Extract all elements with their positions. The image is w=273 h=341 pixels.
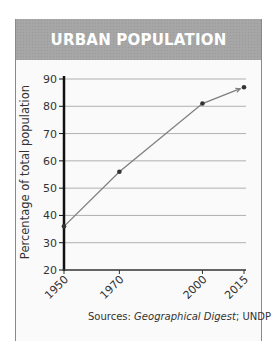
y-axis-label: Percentage of total population — [18, 85, 32, 259]
svg-text:60: 60 — [43, 155, 57, 168]
svg-text:1970: 1970 — [98, 273, 127, 302]
line-chart: 2030405060708090 1950197020002015 Percen… — [0, 0, 273, 341]
x-axis-ticks: 1950197020002015 — [42, 270, 251, 302]
svg-text:40: 40 — [43, 209, 57, 222]
source-note: Sources: Geographical Digest; UNDP — [88, 311, 271, 322]
svg-text:1950: 1950 — [42, 273, 71, 302]
y-axis-ticks: 2030405060708090 — [43, 73, 64, 277]
svg-text:30: 30 — [43, 237, 57, 250]
svg-text:50: 50 — [43, 182, 57, 195]
svg-text:80: 80 — [43, 100, 57, 113]
svg-text:70: 70 — [43, 128, 57, 141]
source-publication: Geographical Digest — [134, 311, 236, 322]
svg-text:2000: 2000 — [181, 273, 210, 302]
gridlines — [64, 79, 246, 243]
svg-text:2015: 2015 — [222, 273, 251, 302]
svg-text:20: 20 — [43, 264, 57, 277]
svg-text:90: 90 — [43, 73, 57, 86]
